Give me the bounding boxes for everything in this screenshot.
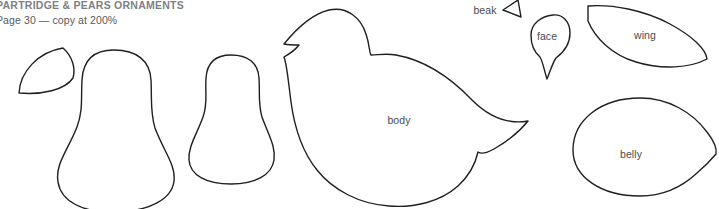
pattern-piece-face: [531, 15, 570, 79]
piece-label-beak: beak: [473, 4, 496, 16]
pattern-piece-belly: [573, 98, 716, 196]
pattern-piece-body: [284, 9, 528, 206]
pattern-piece-leaf: [19, 48, 74, 93]
pattern-piece-pear-large: [58, 50, 175, 209]
pattern-sheet: [0, 0, 719, 209]
pattern-piece-pear-small: [189, 55, 274, 184]
piece-label-belly: belly: [620, 148, 642, 160]
pattern-page: PARTRIDGE & PEARS ORNAMENTS Page 30 — co…: [0, 0, 719, 209]
piece-label-body: body: [387, 114, 410, 126]
piece-label-face: face: [537, 30, 557, 42]
piece-label-wing: wing: [634, 29, 656, 41]
pattern-piece-beak: [503, 0, 521, 17]
